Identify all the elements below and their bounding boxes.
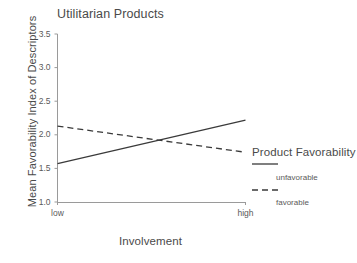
- legend-swatches: [252, 164, 278, 190]
- y-axis: [55, 34, 58, 202]
- y-tick-label: 3.5: [29, 30, 51, 39]
- y-tick-label: 3.0: [29, 63, 51, 72]
- series-line-unfavorable: [58, 120, 246, 164]
- y-tick-label: 1.0: [29, 198, 51, 207]
- series-line-favorable: [58, 126, 246, 152]
- x-tick-label: high: [229, 209, 263, 218]
- y-tick-label: 2.5: [29, 97, 51, 106]
- x-tick-label: low: [41, 209, 75, 218]
- data-series-group: [58, 120, 246, 164]
- y-tick-label: 1.5: [29, 164, 51, 173]
- x-axis: [58, 202, 246, 205]
- chart-figure: Utilitarian Products Mean Favorability I…: [0, 0, 357, 263]
- plot-area: [0, 0, 357, 263]
- y-tick-label: 2.0: [29, 130, 51, 139]
